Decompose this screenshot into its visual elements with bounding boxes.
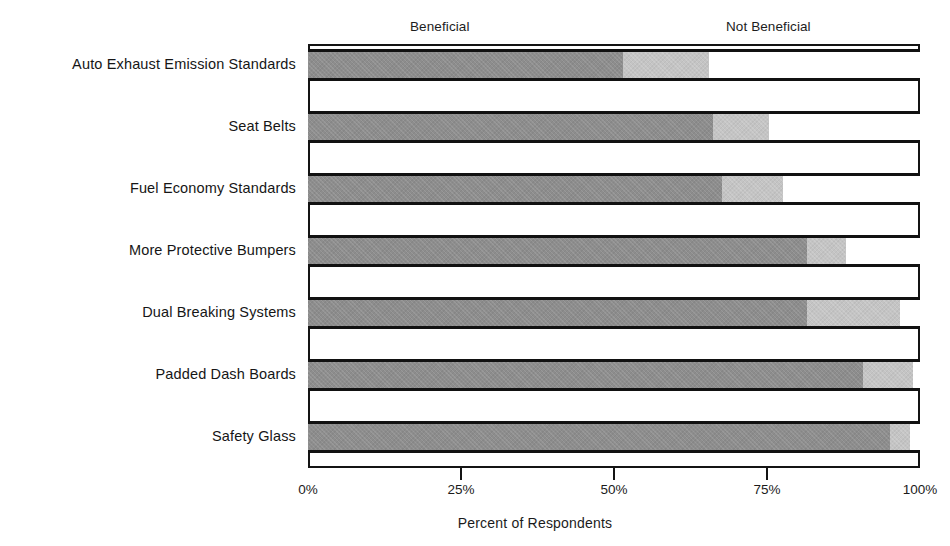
x-axis-tick xyxy=(766,468,768,480)
x-axis-tick xyxy=(460,468,462,480)
x-axis-ticks xyxy=(308,468,920,482)
category-label: Auto Exhaust Emission Standards xyxy=(0,56,296,72)
x-axis-title-text: Percent of Respondents xyxy=(458,515,613,531)
category-label: Dual Breaking Systems xyxy=(0,304,296,320)
category-label: More Protective Bumpers xyxy=(0,242,296,258)
bar-segment-not-beneficial xyxy=(846,238,920,264)
bar-segment-intermediate xyxy=(623,52,710,78)
category-label: Padded Dash Boards xyxy=(0,366,296,382)
x-axis-tick-label: 25% xyxy=(447,482,474,497)
bar-row xyxy=(308,173,920,205)
bar-row xyxy=(308,421,920,453)
bar-segment-beneficial xyxy=(308,176,722,202)
category-label: Safety Glass xyxy=(0,428,296,444)
bar-segment-beneficial xyxy=(308,114,713,140)
x-axis-tick xyxy=(613,468,615,480)
bar-segment-intermediate xyxy=(807,238,846,264)
legend-label-beneficial: Beneficial xyxy=(410,19,470,34)
bar-segment-intermediate xyxy=(713,114,770,140)
x-axis-tick-label: 50% xyxy=(600,482,627,497)
legend-label-not-beneficial: Not Beneficial xyxy=(726,19,811,34)
bar-segment-not-beneficial xyxy=(783,176,920,202)
x-axis-tick-label: 75% xyxy=(753,482,780,497)
bar-segment-not-beneficial xyxy=(900,300,920,326)
bars-layer xyxy=(308,44,920,468)
category-label: Fuel Economy Standards xyxy=(0,180,296,196)
bar-segment-beneficial xyxy=(308,362,863,388)
bar-segment-not-beneficial xyxy=(913,362,920,388)
category-label: Seat Belts xyxy=(0,118,296,134)
bar-row xyxy=(308,359,920,391)
bar-segment-beneficial xyxy=(308,300,807,326)
bar-segment-intermediate xyxy=(863,362,913,388)
bar-segment-not-beneficial xyxy=(709,52,920,78)
x-axis-tick-label: 0% xyxy=(298,482,318,497)
bar-row xyxy=(308,111,920,143)
bar-segment-beneficial xyxy=(308,424,890,450)
bar-segment-intermediate xyxy=(722,176,783,202)
x-axis-tick-label: 100% xyxy=(903,482,938,497)
x-axis-tick-labels: 0%25%50%75%100% xyxy=(0,482,950,504)
x-axis-title: Percent of Respondents xyxy=(0,515,950,531)
bar-row xyxy=(308,49,920,81)
bar-segment-not-beneficial xyxy=(910,424,920,450)
bar-segment-beneficial xyxy=(308,238,807,264)
bar-chart: Beneficial Not Beneficial Auto Exhaust E… xyxy=(0,0,950,546)
bar-segment-beneficial xyxy=(308,52,623,78)
bar-segment-not-beneficial xyxy=(769,114,920,140)
bar-row xyxy=(308,235,920,267)
bar-segment-intermediate xyxy=(807,300,900,326)
bar-segment-intermediate xyxy=(890,424,910,450)
bar-row xyxy=(308,297,920,329)
